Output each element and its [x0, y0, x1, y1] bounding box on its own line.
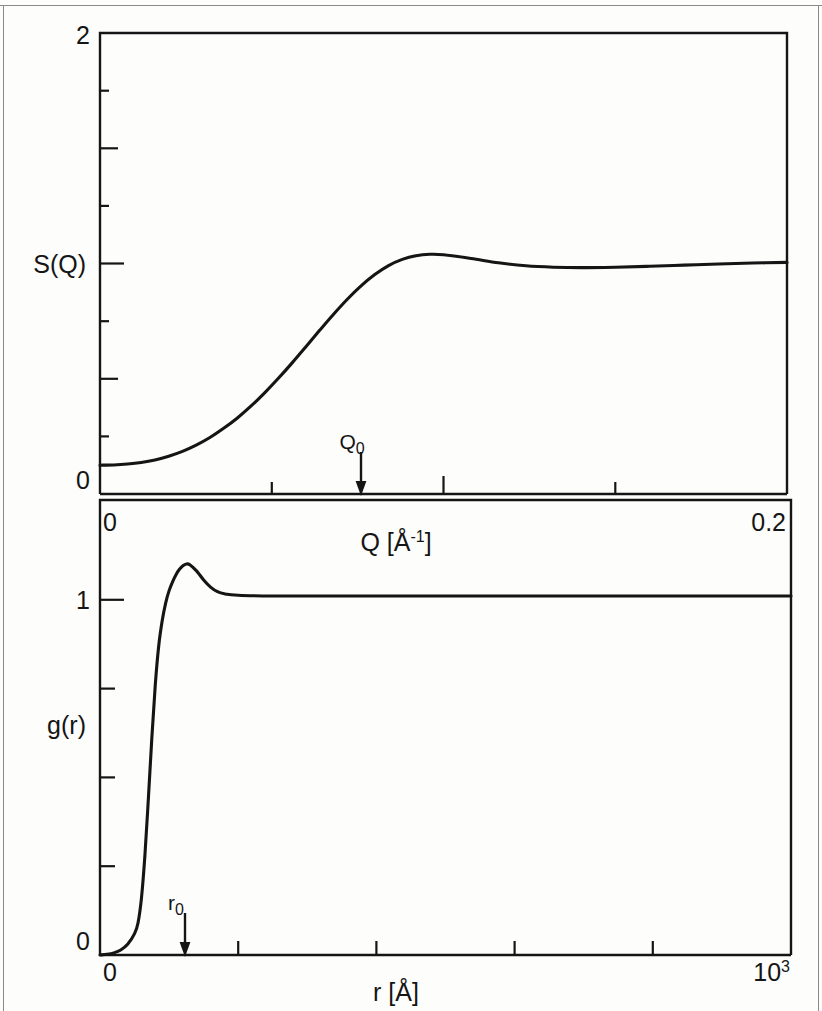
structure-factor-curve — [100, 254, 787, 465]
top-panel-xmin-label: 0 — [103, 508, 117, 536]
bottom-panel-xmax-label: 103 — [753, 958, 790, 986]
bottom-panel-x-axis-label: r [Å] — [373, 977, 419, 1006]
top-panel-x-axis-label: Q [Å-1] — [360, 527, 431, 556]
xmax-exponent: 3 — [781, 958, 790, 975]
figure-svg: 2 0 S(Q) 0 0.2 Q [Å-1] Q0 — [0, 0, 822, 1011]
bottom-panel-frame — [100, 500, 791, 955]
angstrom-symbol-icon: Å — [394, 527, 411, 556]
bottom-panel-ymin-label: 0 — [76, 927, 90, 955]
r0-symbol: r — [168, 891, 175, 914]
x-axis-label-exponent: -1 — [410, 528, 424, 545]
bottom-panel-y-axis-label: g(r) — [47, 711, 86, 739]
r0-annotation-label: r0 — [168, 891, 184, 918]
q0-annotation — [356, 452, 367, 496]
q0-subscript: 0 — [356, 440, 365, 457]
top-panel-ymin-label: 0 — [76, 466, 90, 494]
top-panel-frame — [100, 33, 787, 494]
top-panel-y-ticks — [100, 91, 124, 437]
pair-distribution-panel: 1 0 g(r) 0 103 r [Å] r0 — [47, 500, 791, 1006]
r0-subscript: 0 — [175, 901, 184, 918]
q0-annotation-label: Q0 — [339, 430, 364, 457]
bottom-panel-x-ticks — [238, 941, 653, 955]
bottom-panel-y-ticks — [100, 600, 124, 866]
top-panel-xmax-label: 0.2 — [751, 508, 786, 536]
top-panel-x-ticks — [272, 476, 616, 494]
r-axis-label-main: r [ — [373, 978, 395, 1006]
angstrom-symbol-icon-2: Å — [395, 977, 412, 1006]
pair-distribution-curve — [100, 564, 791, 955]
figure-container: 2 0 S(Q) 0 0.2 Q [Å-1] Q0 — [0, 0, 822, 1011]
bottom-panel-xmin-label: 0 — [103, 958, 117, 986]
xmax-base: 10 — [753, 958, 781, 986]
structure-factor-panel: 2 0 S(Q) 0 0.2 Q [Å-1] Q0 — [33, 21, 787, 556]
r0-annotation — [180, 913, 191, 957]
q0-symbol: Q — [339, 430, 355, 453]
top-panel-y-axis-label: S(Q) — [33, 250, 86, 278]
top-panel-ymax-label: 2 — [76, 21, 90, 49]
x-axis-label-close: ] — [425, 528, 432, 556]
bottom-panel-y-one-label: 1 — [76, 586, 90, 614]
r-axis-label-close: ] — [412, 978, 419, 1006]
x-axis-label-main: Q [ — [360, 528, 393, 556]
